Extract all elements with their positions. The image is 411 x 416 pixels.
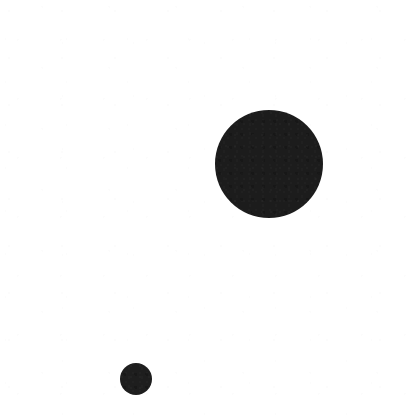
large-disc-grain-texture bbox=[215, 110, 323, 218]
image-canvas bbox=[0, 0, 411, 416]
small-black-disc bbox=[120, 363, 152, 395]
small-disc-grain-texture bbox=[120, 363, 152, 395]
large-black-disc bbox=[215, 110, 323, 218]
